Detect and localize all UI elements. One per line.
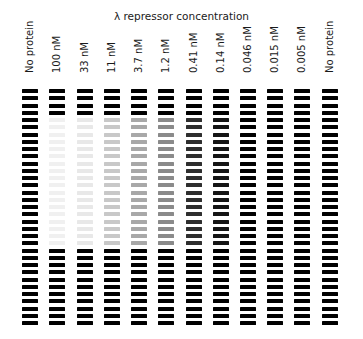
dna-band-protected bbox=[49, 183, 65, 187]
dna-band-protected bbox=[77, 133, 93, 137]
dna-band bbox=[131, 104, 147, 108]
dna-band-protected bbox=[186, 169, 202, 173]
dna-band bbox=[267, 111, 283, 115]
dna-band-protected bbox=[158, 169, 174, 173]
dna-band-protected bbox=[186, 140, 202, 144]
dna-band bbox=[77, 285, 93, 289]
dna-band bbox=[22, 307, 38, 311]
dna-band bbox=[240, 111, 256, 115]
dna-band-protected bbox=[131, 205, 147, 209]
dna-band-protected bbox=[240, 205, 256, 209]
dna-band-protected bbox=[49, 176, 65, 180]
dna-band-protected bbox=[22, 169, 38, 173]
dna-band-protected bbox=[77, 220, 93, 224]
dna-band bbox=[267, 263, 283, 267]
dna-band-protected bbox=[267, 183, 283, 187]
dna-band-protected bbox=[322, 154, 338, 158]
dna-band-protected bbox=[186, 212, 202, 216]
dna-band bbox=[131, 292, 147, 296]
dna-band bbox=[131, 285, 147, 289]
dna-band-protected bbox=[240, 133, 256, 137]
dna-band bbox=[186, 285, 202, 289]
lane-label: No protein bbox=[22, 13, 38, 83]
dna-band-protected bbox=[186, 198, 202, 202]
dna-band bbox=[77, 263, 93, 267]
dna-band-protected bbox=[49, 205, 65, 209]
dna-band bbox=[131, 111, 147, 115]
dna-band-protected bbox=[213, 125, 229, 129]
dna-band-protected bbox=[77, 205, 93, 209]
dna-band-protected bbox=[240, 183, 256, 187]
dna-band bbox=[22, 256, 38, 260]
dna-band-protected bbox=[186, 220, 202, 224]
dna-band bbox=[186, 263, 202, 267]
dna-band bbox=[158, 89, 174, 93]
lane-label: 1.2 nM bbox=[158, 13, 174, 83]
dna-band bbox=[49, 249, 65, 253]
dna-band-protected bbox=[49, 241, 65, 245]
dna-band-protected bbox=[131, 162, 147, 166]
dna-band bbox=[294, 292, 310, 296]
dna-band bbox=[158, 263, 174, 267]
lane-label: 0.14 nM bbox=[213, 13, 229, 83]
dna-band-protected bbox=[104, 118, 120, 122]
dna-band-protected bbox=[322, 191, 338, 195]
dna-band-protected bbox=[322, 118, 338, 122]
dna-band-protected bbox=[267, 205, 283, 209]
gel-lane bbox=[267, 89, 283, 328]
dna-band bbox=[104, 111, 120, 115]
dna-band bbox=[186, 104, 202, 108]
dna-band bbox=[186, 314, 202, 318]
dna-band-protected bbox=[131, 140, 147, 144]
dna-band-protected bbox=[267, 125, 283, 129]
dna-band bbox=[213, 285, 229, 289]
dna-band-protected bbox=[294, 212, 310, 216]
lane-label: 100 nM bbox=[49, 13, 65, 83]
dna-band-protected bbox=[267, 118, 283, 122]
dna-band-protected bbox=[49, 191, 65, 195]
dna-band bbox=[131, 270, 147, 274]
dna-band-protected bbox=[240, 140, 256, 144]
dna-band-protected bbox=[294, 234, 310, 238]
dna-band bbox=[213, 104, 229, 108]
dna-band bbox=[158, 292, 174, 296]
dna-band bbox=[186, 321, 202, 325]
dna-band-protected bbox=[213, 220, 229, 224]
dna-band-protected bbox=[322, 147, 338, 151]
dna-band bbox=[131, 256, 147, 260]
dna-band-protected bbox=[158, 162, 174, 166]
lane-label-text: 11 nM bbox=[107, 42, 117, 73]
dna-band-protected bbox=[294, 162, 310, 166]
dna-band bbox=[240, 263, 256, 267]
dna-band-protected bbox=[186, 118, 202, 122]
dna-band-protected bbox=[240, 234, 256, 238]
dna-band bbox=[49, 104, 65, 108]
dna-band bbox=[49, 321, 65, 325]
dna-band-protected bbox=[240, 147, 256, 151]
dna-band bbox=[213, 278, 229, 282]
dna-band bbox=[240, 256, 256, 260]
dna-band bbox=[294, 314, 310, 318]
dna-band bbox=[22, 299, 38, 303]
dna-band bbox=[322, 314, 338, 318]
dna-band-protected bbox=[322, 227, 338, 231]
dna-band bbox=[294, 278, 310, 282]
dna-band-protected bbox=[22, 205, 38, 209]
dna-band bbox=[158, 285, 174, 289]
dna-band bbox=[322, 285, 338, 289]
lane-label: 11 nM bbox=[104, 13, 120, 83]
dna-band bbox=[240, 321, 256, 325]
dna-band-protected bbox=[131, 118, 147, 122]
dna-band bbox=[213, 307, 229, 311]
gel-lane bbox=[186, 89, 202, 328]
dna-band-protected bbox=[158, 154, 174, 158]
dna-band-protected bbox=[213, 198, 229, 202]
dna-band bbox=[49, 96, 65, 100]
dna-band bbox=[267, 307, 283, 311]
dna-band bbox=[104, 256, 120, 260]
dna-band bbox=[240, 292, 256, 296]
dna-band-protected bbox=[322, 198, 338, 202]
dna-band bbox=[267, 270, 283, 274]
dna-band-protected bbox=[131, 183, 147, 187]
dna-band bbox=[240, 104, 256, 108]
